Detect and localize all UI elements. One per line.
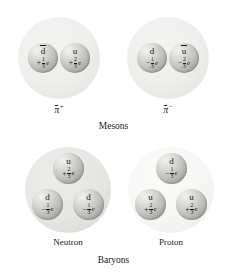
quark-flavor-label: u xyxy=(66,157,71,166)
fraction: 2 3 xyxy=(149,203,153,215)
charge-superscript: − xyxy=(169,103,173,111)
quark-neutron-down-right: d − 1 3 e xyxy=(73,189,104,220)
quark-proton-up-left: u + 2 3 e xyxy=(135,189,166,220)
quark-flavor-label: d xyxy=(150,47,155,56)
quark-neutron-down-left: d − 1 3 e xyxy=(32,189,63,220)
fraction: 2 3 xyxy=(183,57,187,69)
quark-charge-label: + 2 3 e xyxy=(185,203,197,215)
particle-label-pi-plus: π+ xyxy=(18,103,100,115)
fraction: 1 3 xyxy=(170,167,174,179)
quark-charge-label: + 1 3 e xyxy=(37,57,49,69)
hadron-envelope-neutron: u + 2 3 e d − 1 3 e d xyxy=(25,147,111,233)
quark-pi-minus-down: d − 1 3 e xyxy=(137,43,167,73)
quark-charge-label: − 1 3 e xyxy=(146,57,158,69)
hadron-envelope-pi-minus: d − 1 3 e u − 2 3 e xyxy=(127,17,209,99)
hadron-envelope-pi-plus: d + 1 3 e u + 2 3 e xyxy=(18,17,100,99)
fraction: 1 3 xyxy=(42,57,46,69)
quark-flavor-label: d xyxy=(86,193,91,202)
particle-label-proton: Proton xyxy=(128,237,214,247)
quark-pi-plus-antidown: d + 1 3 e xyxy=(28,43,58,73)
quark-flavor-label: u xyxy=(189,193,194,202)
particle-label-neutron: Neutron xyxy=(25,237,111,247)
quark-flavor-label: d xyxy=(169,157,174,166)
pi-symbol: π xyxy=(163,104,168,115)
pi-symbol: π xyxy=(54,104,59,115)
quark-proton-up-right: u + 2 3 e xyxy=(176,189,207,220)
quark-charge-label: + 2 3 e xyxy=(69,57,81,69)
quark-charge-label: − 1 3 e xyxy=(165,167,177,179)
quark-flavor-label: d xyxy=(41,47,46,56)
quark-charge-label: − 2 3 e xyxy=(178,57,190,69)
quark-charge-label: − 1 3 e xyxy=(82,203,94,215)
quark-flavor-label: d xyxy=(45,193,50,202)
quark-charge-label: + 2 3 e xyxy=(144,203,156,215)
section-caption-mesons: Mesons xyxy=(0,121,227,131)
fraction: 2 3 xyxy=(190,203,194,215)
quark-charge-label: + 2 3 e xyxy=(62,167,74,179)
quark-composition-figure: d + 1 3 e u + 2 3 e π+ xyxy=(0,0,227,275)
fraction: 1 3 xyxy=(87,203,91,215)
fraction: 2 3 xyxy=(67,167,71,179)
quark-neutron-up: u + 2 3 e xyxy=(53,153,84,184)
quark-flavor-label: u xyxy=(148,193,153,202)
quark-pi-minus-antiup: u − 2 3 e xyxy=(169,43,199,73)
fraction: 1 3 xyxy=(46,203,50,215)
section-caption-baryons: Baryons xyxy=(0,255,227,265)
quark-flavor-label: u xyxy=(182,47,187,56)
hadron-envelope-proton: d − 1 3 e u + 2 3 e u xyxy=(128,147,214,233)
quark-charge-label: − 1 3 e xyxy=(41,203,53,215)
quark-proton-down: d − 1 3 e xyxy=(156,153,187,184)
quark-pi-plus-up: u + 2 3 e xyxy=(60,43,90,73)
quark-flavor-label: u xyxy=(73,47,78,56)
fraction: 1 3 xyxy=(151,57,155,69)
charge-superscript: + xyxy=(60,103,64,111)
fraction: 2 3 xyxy=(74,57,78,69)
particle-label-pi-minus: π− xyxy=(127,103,209,115)
